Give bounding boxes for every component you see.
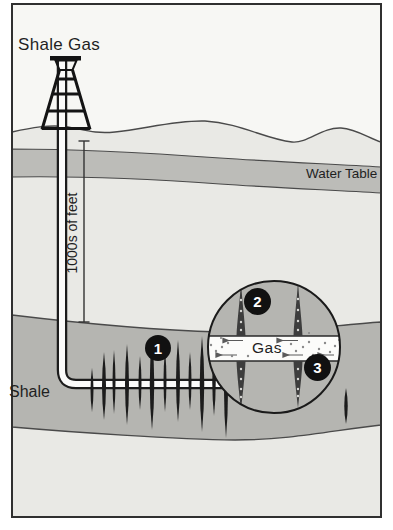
marker-3-badge: 3 (304, 354, 331, 381)
water-table-label: Water Table (306, 166, 377, 181)
shale-label: Shale (9, 383, 50, 401)
marker-1-badge: 1 (145, 335, 171, 361)
diagram-title: Shale Gas (18, 35, 100, 55)
gas-label: Gas (244, 339, 290, 357)
marker-2-badge: 2 (244, 288, 271, 315)
legend: 1 High pressure fluid fractures shale 2 … (12, 446, 381, 515)
depth-scale-label: 1000s of feet (64, 181, 80, 285)
frack-diagram: Shale Gas 1000s of feet Water Table Shal… (0, 0, 393, 530)
